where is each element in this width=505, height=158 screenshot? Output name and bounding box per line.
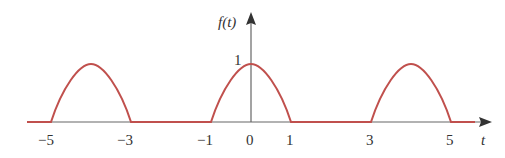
x-tick-3: 3 <box>366 132 374 148</box>
x-tick-m3: −3 <box>117 132 133 148</box>
x-tick-m1: −1 <box>197 132 213 148</box>
y-axis-label: f(t) <box>218 14 236 31</box>
y-tick-1: 1 <box>234 52 242 68</box>
x-axis-label: t <box>481 132 486 148</box>
x-tick-0: 0 <box>246 132 254 148</box>
x-tick-m5: −5 <box>38 132 54 148</box>
x-tick-5: 5 <box>446 132 454 148</box>
x-tick-1: 1 <box>286 132 294 148</box>
chart: f(t) 1 −5 −3 −1 0 1 3 5 t <box>0 0 505 158</box>
